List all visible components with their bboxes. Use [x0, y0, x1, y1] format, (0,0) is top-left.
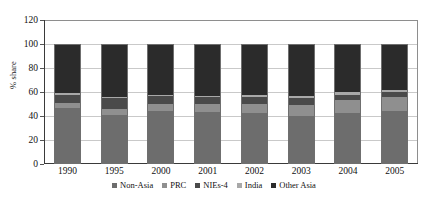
y-tick-label: 60 [12, 88, 38, 97]
legend-swatch-icon [112, 183, 117, 188]
bar-segment [148, 96, 173, 104]
bar-segment [289, 45, 314, 96]
bar-segment [102, 98, 127, 109]
bar-segment [55, 95, 80, 103]
bar-segment [335, 45, 360, 92]
bar-segment [148, 104, 173, 111]
x-tick-label: 1995 [92, 165, 136, 177]
y-tick-label: 20 [12, 136, 38, 145]
bar-segment [242, 45, 267, 95]
y-axis-tick-labels: 020406080100120 [12, 0, 38, 199]
legend-label: NIEs-4 [203, 180, 228, 190]
bar-segment [382, 111, 407, 163]
bar-segment [289, 116, 314, 163]
legend-label: Other Asia [279, 180, 316, 190]
bar-segment [148, 45, 173, 95]
x-tick-label: 1990 [45, 165, 89, 177]
x-tick-label: 2002 [232, 165, 276, 177]
bar-segment [242, 113, 267, 163]
legend-label: India [245, 180, 262, 190]
bar-segment [55, 108, 80, 163]
legend-item[interactable]: NIEs-4 [195, 180, 228, 190]
bar-segment [289, 98, 314, 105]
legend-label: Non-Asia [120, 180, 153, 190]
bar-segment [195, 104, 220, 112]
legend-item[interactable]: PRC [162, 180, 186, 190]
legend-item[interactable]: Other Asia [271, 180, 316, 190]
bar-column [334, 44, 361, 164]
bar-column [288, 44, 315, 164]
bar-segment [102, 115, 127, 163]
bar-segment [382, 45, 407, 90]
bar-segment [335, 100, 360, 113]
bar-segment [382, 97, 407, 111]
bar-segment [195, 97, 220, 104]
bar-segment [102, 45, 127, 97]
bar-column [241, 44, 268, 164]
y-tick-label: 80 [12, 64, 38, 73]
bar-column [147, 44, 174, 164]
y-tick-label: 120 [12, 16, 38, 25]
x-axis-tick-labels: 19901995200020012002200320042005 [44, 165, 418, 179]
chart-legend: Non-AsiaPRCNIEs-4IndiaOther Asia [0, 180, 428, 190]
x-tick-label: 2004 [326, 165, 370, 177]
legend-item[interactable]: Non-Asia [112, 180, 153, 190]
y-tick-label: 40 [12, 112, 38, 121]
legend-swatch-icon [237, 183, 242, 188]
x-tick-label: 2005 [373, 165, 417, 177]
legend-item[interactable]: India [237, 180, 262, 190]
bar-column [381, 44, 408, 164]
bar-segment [289, 105, 314, 116]
bar-series-group [44, 20, 418, 164]
y-tick-label: 0 [12, 160, 38, 169]
y-tick-label: 100 [12, 40, 38, 49]
bar-segment [335, 113, 360, 163]
bar-column [101, 44, 128, 164]
bar-segment [195, 112, 220, 163]
x-tick-label: 2001 [186, 165, 230, 177]
chart-figure: % share 020406080100120 1990199520002001… [0, 0, 428, 199]
legend-swatch-icon [195, 183, 200, 188]
bar-segment [148, 111, 173, 163]
bar-segment [242, 97, 267, 104]
bar-column [54, 44, 81, 164]
bar-column [194, 44, 221, 164]
plot-area: % share 020406080100120 1990199520002001… [0, 0, 428, 199]
legend-swatch-icon [271, 183, 276, 188]
x-tick-label: 2003 [279, 165, 323, 177]
x-tick-label: 2000 [139, 165, 183, 177]
legend-label: PRC [170, 180, 186, 190]
legend-swatch-icon [162, 183, 167, 188]
bar-segment [242, 104, 267, 113]
bar-segment [55, 45, 80, 93]
bar-segment [195, 45, 220, 96]
